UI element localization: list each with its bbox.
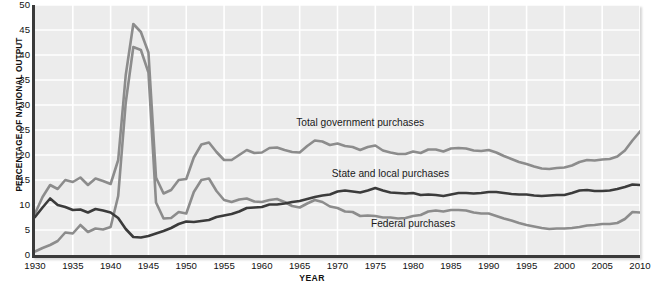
x-tick-label: 1940 (100, 261, 121, 271)
x-tick-label: 2010 (629, 261, 650, 271)
y-tick-label: 30 (19, 100, 30, 110)
y-tick-label: 20 (19, 150, 30, 160)
x-tick-label: 1935 (62, 261, 83, 271)
x-tick-label: 2000 (554, 261, 575, 271)
x-tick-label: 1990 (478, 261, 499, 271)
x-tick-label: 1965 (289, 261, 310, 271)
y-tick-label: 0 (25, 250, 30, 260)
chart-figure: PERCENTAGE OF NATIONAL OUTPUT 0510152025… (0, 0, 651, 289)
x-tick-label: 1930 (24, 261, 45, 271)
x-tick-label: 1995 (516, 261, 537, 271)
y-tick-label: 45 (19, 25, 30, 35)
y-tick-label: 5 (25, 225, 30, 235)
y-tick-label: 40 (19, 50, 30, 60)
x-tick-label: 1980 (402, 261, 423, 271)
y-tick-label: 15 (19, 175, 30, 185)
x-tick-label: 1950 (176, 261, 197, 271)
x-tick-label: 1985 (440, 261, 461, 271)
y-tick-label: 10 (19, 200, 30, 210)
x-tick-label: 1975 (365, 261, 386, 271)
total-label: Total government purchases (296, 117, 424, 127)
x-tick-label: 1960 (251, 261, 272, 271)
state-label: State and local purchases (332, 168, 449, 178)
x-tick-label: 1955 (213, 261, 234, 271)
x-axis-title: YEAR (299, 273, 324, 283)
x-tick-label: 2005 (592, 261, 613, 271)
y-tick-label: 50 (19, 0, 30, 10)
y-tick-label: 25 (19, 125, 30, 135)
x-tick-label: 1945 (138, 261, 159, 271)
x-tick-label: 1970 (327, 261, 348, 271)
y-tick-label: 35 (19, 75, 30, 85)
series-lines (35, 5, 640, 255)
plot-area: 05101520253035404550 1930193519401945195… (32, 5, 640, 258)
federal-label: Federal purchases (371, 218, 455, 228)
